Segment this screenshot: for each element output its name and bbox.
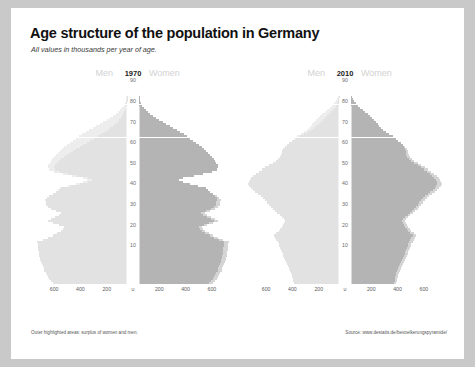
age-bar (110, 117, 127, 119)
x-tick-label: 200 (367, 286, 376, 292)
age-bar (276, 239, 339, 241)
age-bar (351, 253, 408, 255)
age-bar (351, 247, 410, 249)
age-bar (139, 247, 228, 249)
core-segment (53, 282, 127, 284)
age-bar (312, 123, 339, 125)
age-bar (139, 142, 196, 144)
age-bar (139, 119, 159, 121)
core-segment (276, 160, 339, 162)
core-segment (249, 185, 339, 187)
age-bar (288, 265, 339, 267)
core-segment (351, 208, 414, 210)
age-bar (292, 140, 339, 142)
core-segment (139, 187, 206, 189)
age-bar (38, 247, 127, 249)
age-bar (68, 185, 127, 187)
core-segment (139, 113, 150, 115)
age-bar (297, 135, 339, 137)
core-segment (139, 160, 215, 162)
core-segment (351, 105, 358, 107)
core-segment (139, 156, 212, 158)
age-bar (139, 270, 222, 272)
age-bar (351, 133, 389, 135)
age-bar (280, 156, 339, 158)
core-segment (351, 160, 411, 162)
age-bar (116, 113, 127, 115)
core-segment (321, 121, 339, 123)
age-bar (261, 195, 339, 197)
core-segment (139, 98, 140, 100)
core-segment (47, 274, 127, 276)
core-segment (273, 208, 340, 210)
core-segment (279, 245, 339, 247)
core-segment (351, 241, 409, 243)
age-bar (43, 265, 127, 267)
core-segment (265, 199, 339, 201)
age-bar (351, 123, 378, 125)
age-bar (139, 234, 213, 236)
core-segment (46, 204, 127, 206)
core-segment (80, 146, 127, 148)
age-bar (139, 146, 202, 148)
core-segment (296, 138, 339, 140)
age-bar (64, 226, 127, 228)
age-bar (48, 164, 127, 166)
age-bar (263, 197, 339, 199)
age-bar (56, 154, 127, 156)
age-axis (339, 106, 352, 288)
age-bar (291, 272, 339, 274)
core-segment (351, 121, 376, 123)
x-tick-label: 200 (314, 286, 323, 292)
age-tick-label: 30 (342, 201, 348, 207)
age-bar (49, 195, 127, 197)
core-segment (248, 183, 339, 185)
core-segment (40, 259, 127, 261)
age-bar (275, 237, 339, 239)
core-segment (139, 129, 177, 131)
legend-men: Men (307, 68, 325, 78)
core-segment (255, 191, 339, 193)
core-segment (67, 154, 127, 156)
core-segment (139, 195, 215, 197)
age-bar (139, 214, 207, 216)
core-segment (101, 133, 127, 135)
age-bar (139, 117, 156, 119)
core-segment (284, 222, 339, 224)
age-tick-label: 70 (130, 119, 136, 125)
age-bar (304, 131, 339, 133)
age-bar (139, 224, 207, 226)
core-segment (285, 259, 339, 261)
age-bar (351, 226, 408, 228)
core-segment (61, 187, 127, 189)
footnote: Outer highlighted areas: surplus of wome… (31, 330, 138, 335)
core-segment (53, 193, 127, 195)
age-bar (351, 160, 414, 162)
men-bars (247, 88, 339, 284)
age-bar (139, 220, 218, 222)
core-segment (139, 253, 223, 255)
core-segment (276, 239, 339, 241)
core-segment (249, 181, 339, 183)
core-segment (351, 98, 353, 100)
core-segment (80, 183, 127, 185)
age-bar (56, 191, 127, 193)
age-bar (139, 185, 198, 187)
age-bar (351, 230, 411, 232)
age-bar (351, 187, 439, 189)
age-bar (44, 267, 127, 269)
age-bar (351, 119, 374, 121)
age-bar (351, 267, 401, 269)
core-segment (351, 237, 411, 239)
age-tick-label: 90 (342, 77, 348, 83)
core-segment (351, 210, 412, 212)
core-segment (338, 100, 339, 102)
core-segment (351, 102, 356, 104)
age-bar (351, 100, 354, 102)
age-tick-label: 10 (342, 242, 348, 248)
core-segment (139, 199, 217, 201)
age-bar (139, 195, 217, 197)
core-segment (139, 247, 223, 249)
core-segment (139, 164, 218, 166)
age-bar (351, 107, 360, 109)
